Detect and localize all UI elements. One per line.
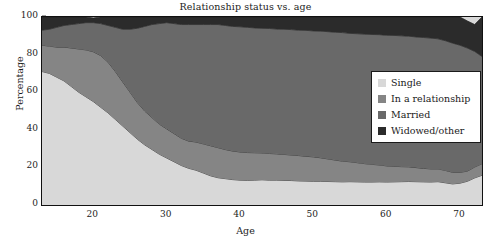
x-tick-label: 70 [444, 210, 474, 219]
x-tick-label: 50 [297, 210, 327, 219]
legend-swatch-icon [378, 79, 386, 87]
legend-swatch-icon [378, 95, 386, 103]
x-tick-label: 20 [77, 210, 107, 219]
legend-item-label: Widowed/other [391, 126, 464, 136]
x-tick-label: 60 [371, 210, 401, 219]
legend-swatch-icon [378, 111, 386, 119]
legend-item: Single [372, 75, 480, 91]
legend-item-label: Married [391, 110, 430, 120]
x-axis-label: Age [0, 225, 491, 236]
legend-swatch-icon [378, 127, 386, 135]
legend-item: In a relationship [372, 91, 480, 107]
chart-legend: SingleIn a relationshipMarriedWidowed/ot… [371, 71, 481, 143]
legend-item: Married [372, 107, 480, 123]
legend-item-label: In a relationship [391, 94, 470, 104]
legend-item-label: Single [391, 78, 421, 88]
chart-figure: Relationship status vs. age 020406080100… [0, 0, 491, 245]
legend-item: Widowed/other [372, 123, 480, 139]
x-axis-tick-labels: 203040506070 [0, 210, 491, 224]
x-tick-label: 30 [151, 210, 181, 219]
x-tick-label: 40 [224, 210, 254, 219]
